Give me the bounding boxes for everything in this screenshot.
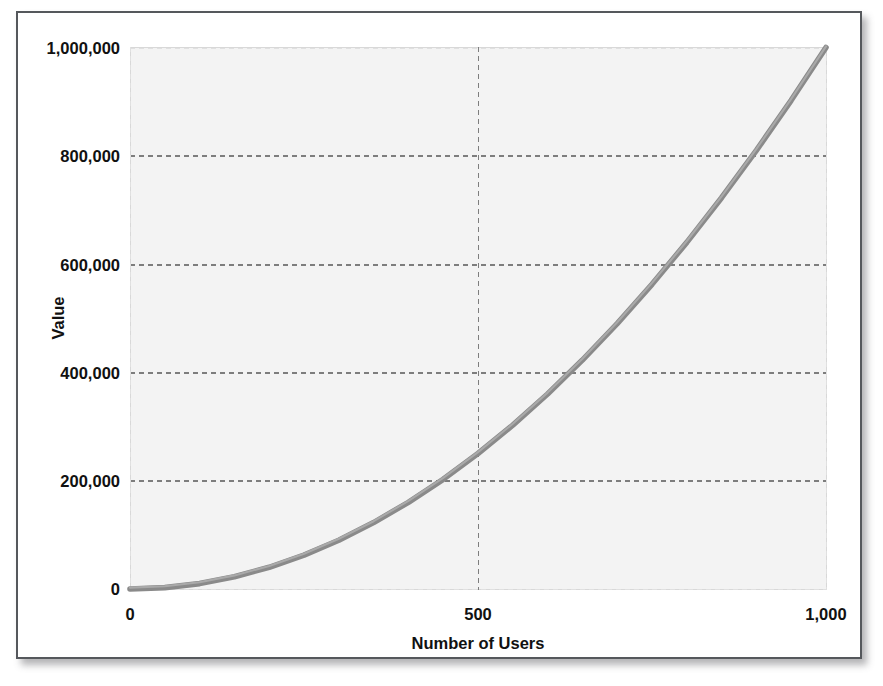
y-tick-label-0: 0 (111, 580, 120, 598)
y-tick-label-800000: 800,000 (60, 147, 120, 165)
x-axis-title: Number of Users (412, 634, 545, 652)
x-tick-label-500: 500 (464, 605, 492, 623)
y-tick-label-200000: 200,000 (60, 472, 120, 490)
x-axis-tick-labels: 0 500 1,000 (125, 605, 846, 623)
y-tick-label-600000: 600,000 (60, 256, 120, 274)
chart-figure-frame: 1,000,000 800,000 600,000 400,000 200,00… (16, 11, 862, 659)
x-tick-label-1000: 1,000 (805, 605, 846, 623)
y-axis-title: Value (49, 296, 67, 339)
y-tick-label-400000: 400,000 (60, 364, 120, 382)
chart-canvas: 1,000,000 800,000 600,000 400,000 200,00… (18, 13, 864, 661)
x-tick-label-0: 0 (125, 605, 134, 623)
y-tick-label-1000000: 1,000,000 (47, 39, 120, 57)
